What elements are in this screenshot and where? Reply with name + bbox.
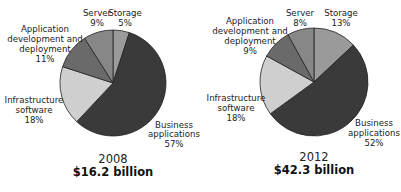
label-business-line2: applications (348, 128, 400, 138)
label-appdev-line3: deployment (224, 36, 276, 46)
label-storage: Storage (324, 8, 358, 18)
label-appdev-pct: 11% (35, 54, 54, 64)
total-2012: $42.3 billion (274, 163, 354, 177)
label-business-pct: 52% (364, 138, 383, 148)
label-business-line2: applications (148, 129, 200, 139)
label-storage-pct: 5% (118, 18, 132, 28)
label-infra-line1: Infrastructure (207, 93, 266, 103)
year-2012: 2012 (299, 150, 328, 164)
label-business-pct: 57% (164, 139, 183, 149)
label-server-pct: 8% (293, 18, 307, 28)
label-infra-pct: 18% (24, 115, 43, 125)
pie-chart-2012 (260, 28, 368, 136)
label-server-pct: 9% (90, 18, 104, 28)
label-server: Server (286, 8, 315, 18)
label-infra-line2: software (218, 103, 255, 113)
year-2008: 2008 (98, 152, 127, 166)
label-infra-pct: 18% (226, 113, 245, 123)
label-storage-pct: 13% (331, 18, 350, 28)
label-storage: Storage (108, 8, 142, 18)
pie-chart-2008 (60, 30, 166, 136)
label-appdev-line3: deployment (19, 44, 71, 54)
pie-charts: Server 9% Storage 5% Application develop… (0, 0, 401, 192)
label-appdev-line2: development and (7, 34, 83, 44)
label-infra-line2: software (16, 105, 53, 115)
label-appdev-line2: development and (212, 26, 288, 36)
label-business-line1: Business (355, 118, 393, 128)
label-appdev-line1: Application (226, 16, 274, 26)
total-2008: $16.2 billion (73, 165, 153, 179)
label-appdev-line1: Application (21, 24, 69, 34)
label-infra-line1: Infrastructure (5, 95, 64, 105)
label-appdev-pct: 9% (243, 46, 257, 56)
